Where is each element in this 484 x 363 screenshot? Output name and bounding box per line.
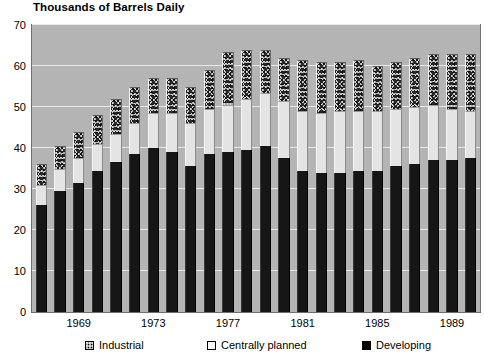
bar-segment-centrally-planned — [110, 134, 122, 163]
x-axis-tick-label: 1989 — [440, 317, 464, 329]
bar-1981[interactable] — [297, 60, 309, 312]
bar-1968[interactable] — [54, 146, 66, 312]
y-axis: 010203040506070 — [0, 24, 31, 314]
bar-segment-industrial — [73, 132, 85, 159]
bar-1972[interactable] — [129, 87, 141, 313]
x-axis-tick-label: 1985 — [365, 317, 389, 329]
bar-segment-centrally-planned — [166, 113, 178, 152]
bar-segment-centrally-planned — [36, 185, 48, 206]
bar-1990[interactable] — [465, 54, 477, 312]
bar-segment-industrial — [222, 52, 234, 105]
bar-segment-developing — [390, 166, 402, 312]
bar-segment-centrally-planned — [241, 99, 253, 150]
x-axis-tick-label: 1977 — [216, 317, 240, 329]
stippled-swatch-icon — [85, 341, 94, 350]
x-axis: 196919731977198119851989 — [31, 315, 481, 335]
bar-segment-centrally-planned — [334, 111, 346, 173]
bar-segment-developing — [428, 160, 440, 312]
bar-1970[interactable] — [92, 115, 104, 312]
bar-segment-centrally-planned — [428, 105, 440, 160]
bar-1976[interactable] — [204, 70, 216, 312]
y-axis-tick-label: 30 — [14, 183, 26, 195]
bar-segment-centrally-planned — [129, 123, 141, 154]
legend-label: Developing — [376, 340, 431, 351]
bar-segment-industrial — [297, 60, 309, 111]
y-axis-tick-label: 10 — [14, 265, 26, 277]
bar-segment-developing — [73, 183, 85, 312]
bar-1984[interactable] — [353, 60, 365, 312]
bar-segment-industrial — [353, 60, 365, 111]
bar-segment-developing — [316, 173, 328, 312]
bar-1967[interactable] — [36, 164, 48, 312]
bar-segment-developing — [241, 150, 253, 312]
bar-segment-developing — [54, 191, 66, 312]
chart-title: Thousands of Barrels Daily — [33, 1, 185, 13]
bar-1989[interactable] — [446, 54, 458, 312]
y-axis-tick-label: 40 — [14, 142, 26, 154]
bar-segment-centrally-planned — [446, 109, 458, 160]
x-axis-tick-label: 1969 — [66, 317, 90, 329]
bar-segment-industrial — [316, 62, 328, 113]
bar-segment-developing — [166, 152, 178, 312]
stacked-bar-chart: Thousands of Barrels Daily 0102030405060… — [0, 0, 484, 363]
x-axis-tick-label: 1981 — [290, 317, 314, 329]
bar-segment-industrial — [260, 50, 272, 93]
bar-segment-developing — [409, 164, 421, 312]
bar-segment-centrally-planned — [185, 123, 197, 166]
bar-segment-centrally-planned — [353, 111, 365, 170]
bar-1988[interactable] — [428, 54, 440, 312]
bar-segment-centrally-planned — [260, 93, 272, 146]
bar-segment-industrial — [241, 50, 253, 99]
bar-segment-industrial — [36, 164, 48, 185]
bar-1986[interactable] — [390, 62, 402, 312]
bar-1979[interactable] — [260, 50, 272, 312]
legend-label: Centrally planned — [221, 340, 307, 351]
y-axis-tick-label: 0 — [20, 306, 26, 318]
bar-segment-developing — [185, 166, 197, 312]
bar-segment-industrial — [110, 99, 122, 134]
bar-1983[interactable] — [334, 62, 346, 312]
bar-segment-developing — [129, 154, 141, 312]
legend-item-centrally-planned[interactable]: Centrally planned — [207, 340, 307, 351]
bar-1977[interactable] — [222, 52, 234, 312]
bar-1980[interactable] — [278, 58, 290, 312]
bar-segment-industrial — [465, 54, 477, 111]
bar-segment-centrally-planned — [204, 109, 216, 154]
y-axis-tick-label: 20 — [14, 224, 26, 236]
legend-item-industrial[interactable]: Industrial — [85, 340, 144, 351]
y-axis-tick-label: 70 — [14, 19, 26, 31]
bar-1969[interactable] — [73, 132, 85, 312]
bar-segment-developing — [204, 154, 216, 312]
bar-segment-industrial — [166, 78, 178, 113]
bar-segment-developing — [446, 160, 458, 312]
bar-1975[interactable] — [185, 87, 197, 313]
bar-segment-industrial — [409, 58, 421, 107]
bar-segment-developing — [148, 148, 160, 312]
bar-1978[interactable] — [241, 50, 253, 312]
bar-segment-centrally-planned — [54, 169, 66, 192]
bar-segment-industrial — [446, 54, 458, 109]
bar-segment-developing — [36, 205, 48, 312]
bar-1971[interactable] — [110, 99, 122, 312]
bar-segment-centrally-planned — [297, 111, 309, 170]
bar-segment-industrial — [92, 115, 104, 144]
legend-item-developing[interactable]: Developing — [362, 340, 431, 351]
bar-1973[interactable] — [148, 78, 160, 312]
bars-layer — [32, 25, 480, 312]
bar-1987[interactable] — [409, 58, 421, 312]
y-axis-tick-label: 50 — [14, 101, 26, 113]
bar-segment-industrial — [390, 62, 402, 109]
bar-segment-developing — [110, 162, 122, 312]
bar-segment-industrial — [204, 70, 216, 109]
bar-segment-centrally-planned — [316, 113, 328, 172]
bar-segment-developing — [353, 171, 365, 312]
bar-1974[interactable] — [166, 78, 178, 312]
bar-segment-developing — [372, 171, 384, 312]
bar-segment-centrally-planned — [222, 105, 234, 152]
white-swatch-icon — [207, 341, 216, 350]
bar-segment-industrial — [428, 54, 440, 105]
bar-segment-industrial — [148, 78, 160, 113]
bar-segment-centrally-planned — [92, 144, 104, 171]
bar-1985[interactable] — [372, 66, 384, 312]
bar-1982[interactable] — [316, 62, 328, 312]
